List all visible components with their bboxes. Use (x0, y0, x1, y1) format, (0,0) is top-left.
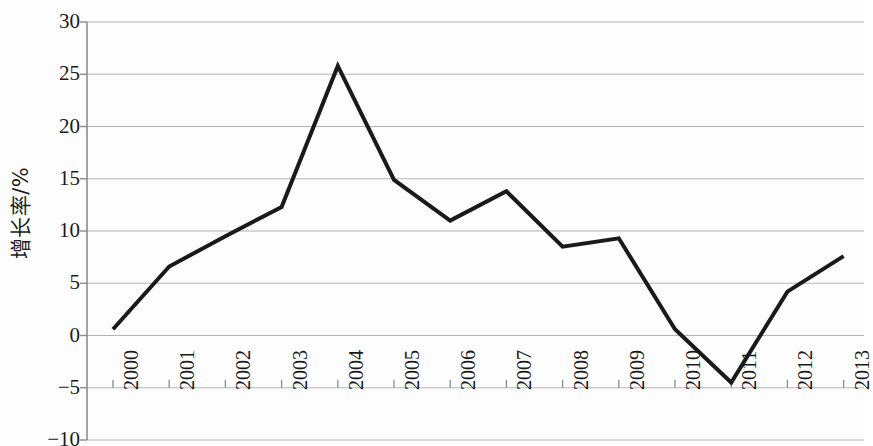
y-tick-marks (80, 22, 87, 440)
y-tick-label: −5 (34, 377, 80, 398)
y-tick-label: 5 (34, 272, 80, 293)
gridlines (87, 22, 864, 440)
y-axis-tick-labels: −10−5051015202530 (30, 0, 80, 446)
y-tick-label: 0 (34, 325, 80, 346)
y-tick-label: 25 (34, 63, 80, 84)
y-tick-label: −10 (34, 429, 80, 446)
y-tick-label: 15 (34, 168, 80, 189)
y-tick-label: 20 (34, 116, 80, 137)
y-tick-label: 10 (34, 220, 80, 241)
y-tick-label: 30 (34, 11, 80, 32)
